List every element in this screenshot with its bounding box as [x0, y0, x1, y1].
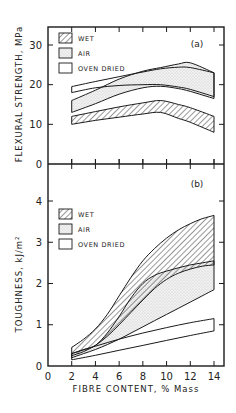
legend-swatch-oven-dried [59, 239, 72, 249]
panel-b-bands [72, 215, 214, 359]
band-wet-fill [72, 100, 214, 132]
y-tick-label: 2 [36, 278, 42, 289]
legend-swatch-air [59, 48, 72, 58]
legend-swatch-wet [59, 33, 72, 43]
legend-swatch-wet [59, 209, 72, 219]
panel-b-y-tick-labels: 01234 [36, 196, 42, 372]
y-tick-label: 30 [29, 40, 42, 51]
legend-swatch-air [59, 224, 72, 234]
panel-a: 0102030 (a) FLEXURAL STRENGTH, MPa WETAI… [14, 26, 224, 170]
y-tick-label: 10 [29, 119, 42, 130]
panel-a-y-axis-title: FLEXURAL STRENGTH, MPa [14, 26, 24, 163]
y-tick-label: 0 [36, 361, 42, 372]
legend-label-air: AIR [78, 226, 91, 234]
y-tick-label: 1 [36, 319, 42, 330]
panel-b-x-tick-labels: 02468101214 [45, 371, 221, 382]
y-tick-label: 3 [36, 237, 42, 248]
legend-swatch-oven-dried [59, 63, 72, 73]
legend-label-wet: WET [78, 211, 94, 219]
panel-b-legend: WETAIROVEN DRIED [59, 209, 125, 249]
y-tick-label: 0 [36, 159, 42, 170]
y-tick-label: 20 [29, 79, 42, 90]
panel-a-bands [72, 62, 214, 132]
x-tick-label: 10 [160, 371, 173, 382]
x-tick-label: 12 [184, 371, 197, 382]
panel-a-legend: WETAIROVEN DRIED [59, 33, 125, 73]
legend-label-wet: WET [78, 35, 94, 43]
panel-b-label: (b) [191, 179, 204, 189]
legend-label-oven-dried: OVEN DRIED [78, 65, 125, 73]
panel-a-label: (a) [191, 39, 204, 49]
composite-chart: 0102030 (a) FLEXURAL STRENGTH, MPa WETAI… [0, 0, 236, 413]
x-tick-label: 0 [45, 371, 51, 382]
x-axis-title: FIBRE CONTENT, % Mass [73, 384, 200, 394]
panel-a-y-tick-labels: 0102030 [29, 40, 42, 170]
x-tick-label: 4 [92, 371, 98, 382]
x-tick-label: 2 [69, 371, 75, 382]
y-tick-label: 4 [36, 196, 42, 207]
panel-b-y-axis-title: TOUGHNESS, kJ/m² [14, 236, 24, 334]
panel-b: 01234 02468101214 (b) TOUGHNESS, kJ/m² F… [14, 164, 224, 394]
legend-label-air: AIR [78, 50, 91, 58]
legend-label-oven-dried: OVEN DRIED [78, 241, 125, 249]
x-tick-label: 14 [208, 371, 221, 382]
x-tick-label: 8 [140, 371, 146, 382]
x-tick-label: 6 [116, 371, 122, 382]
